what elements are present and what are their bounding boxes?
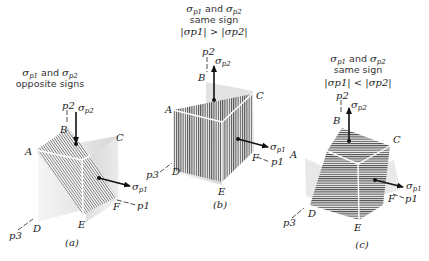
panel-c-sigma-p2-point	[347, 139, 351, 143]
panel-b-sigma-p1-point	[236, 137, 240, 141]
panel-b-sigma-p2-label: σp2	[215, 55, 231, 68]
panel-c-vertex-b: B	[332, 115, 340, 126]
panel-a-tag: (a)	[65, 237, 79, 248]
panel-a-p3-label: p3	[9, 230, 22, 241]
panel-a-sigma-p2-point	[74, 142, 78, 146]
panel-c-sigma-p1-label: σp1	[406, 180, 422, 193]
panel-b-caption-line2: same sign	[190, 14, 239, 25]
panel-a-vertex-e: E	[77, 219, 86, 230]
panel-c-sigma-p2-label: σp2	[351, 99, 367, 112]
panel-b-caption: σp1andσp2 same sign |σp1| > |σp2|	[180, 3, 247, 38]
panel-b-vertex-b: B	[197, 72, 205, 83]
panel-b-p3-label: p3	[146, 169, 159, 180]
panel-c-vertex-e: E	[353, 222, 362, 233]
panel-a-caption-line2: opposite signs	[16, 78, 85, 89]
panel-c-vertex-d: D	[307, 208, 316, 219]
panel-b-tag: (b)	[213, 199, 227, 210]
panel-b-sigma-p2-point	[212, 98, 216, 102]
panel-c-vertex-a: A	[289, 149, 297, 160]
panel-c: σp1andσp2 same sign |σp1| < |σp2| p2 σp2…	[283, 53, 422, 250]
panel-a-vertex-f: F	[112, 201, 121, 212]
panel-a-vertex-c: C	[116, 132, 124, 143]
panel-a: σp1andσp2 opposite signs p2 σp2 B A C D …	[9, 67, 150, 248]
panel-a-caption: σp1andσp2 opposite signs	[16, 67, 85, 89]
panel-b-vertex-e: E	[217, 186, 226, 197]
panel-b-caption-line3: |σp1| > |σp2|	[180, 26, 247, 38]
panel-a-p3-axis	[18, 219, 33, 230]
panel-c-p1-label: p1	[405, 193, 418, 204]
panel-b-p2-label: p2	[202, 46, 215, 57]
panel-c-caption: σp1andσp2 same sign |σp1| < |σp2|	[324, 53, 391, 89]
panel-a-sigma-p1-point	[97, 176, 101, 180]
panel-a-sigma-p1-label: σp1	[132, 181, 148, 194]
panel-b: σp1andσp2 same sign |σp1| > |σp2| p2 σp2…	[146, 3, 286, 210]
panel-b-vertex-d: D	[171, 166, 180, 177]
panel-c-p3-label: p3	[283, 217, 296, 228]
panel-a-p2-label: p2	[62, 100, 75, 111]
panel-a-vertex-d: D	[32, 223, 41, 234]
panel-b-p1-label: p1	[271, 156, 284, 167]
panel-c-caption-line2: same sign	[334, 64, 383, 75]
panel-c-tag: (c)	[355, 239, 369, 250]
panel-b-vertex-f: F	[251, 152, 260, 163]
panel-a-p1-label: p1	[137, 200, 150, 211]
panel-c-vertex-f: F	[387, 193, 396, 204]
panel-c-caption-line3: |σp1| < |σp2|	[324, 77, 391, 89]
panel-a-sigma-p2-label: σp2	[78, 102, 94, 115]
panel-b-vertex-c: C	[256, 90, 264, 101]
panel-a-vertex-a: A	[24, 146, 32, 157]
panel-c-vertex-c: C	[393, 134, 401, 145]
panel-b-p3-axis	[160, 163, 172, 172]
panel-a-edge-vertical	[82, 160, 83, 215]
panel-c-sigma-p1-point	[373, 178, 377, 182]
panel-b-sigma-p1-label: σp1	[270, 141, 286, 154]
panel-b-vertex-a: A	[164, 104, 172, 115]
panel-c-p2-label: p2	[336, 90, 349, 101]
maximum-shear-planes-diagram: σp1andσp2 opposite signs p2 σp2 B A C D …	[0, 0, 429, 261]
panel-a-vertex-b: B	[59, 124, 67, 135]
panel-c-edge-vertical	[358, 164, 359, 220]
